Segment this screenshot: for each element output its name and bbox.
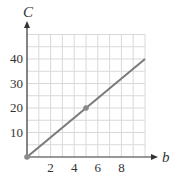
y-tick-label: 30 (10, 76, 23, 91)
y-tick-label: 20 (10, 100, 23, 115)
y-axis-arrow-icon (24, 21, 30, 28)
y-axis-label: C (23, 4, 34, 20)
x-tick-label: 8 (118, 160, 125, 175)
chart: bC246810203040 (0, 0, 183, 180)
x-tick-label: 2 (47, 160, 54, 175)
x-axis-arrow-icon (151, 154, 158, 160)
x-axis-label: b (162, 149, 170, 165)
data-point (83, 105, 89, 111)
y-tick-label: 40 (10, 51, 23, 66)
y-tick-label: 10 (10, 125, 23, 140)
data-point (24, 154, 30, 160)
x-tick-label: 4 (71, 160, 78, 175)
x-tick-label: 6 (95, 160, 102, 175)
